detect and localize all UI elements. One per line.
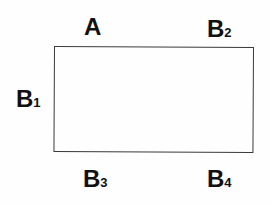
label-b1-sub: 1 — [33, 95, 40, 110]
diagram-canvas: A B2 B1 B3 B4 — [0, 0, 270, 205]
label-b4-main: B — [207, 165, 224, 192]
label-b4-sub: 4 — [224, 175, 231, 190]
label-b2-sub: 2 — [224, 25, 231, 40]
label-b2: B2 — [207, 17, 232, 45]
label-b3-sub: 3 — [100, 175, 107, 190]
label-b3-main: B — [83, 165, 100, 192]
label-b1: B1 — [16, 87, 41, 115]
rectangle — [53, 46, 254, 153]
label-a: A — [84, 15, 101, 43]
label-b1-main: B — [16, 85, 33, 112]
label-a-main: A — [84, 13, 101, 40]
label-b3: B3 — [83, 167, 108, 195]
label-b4: B4 — [207, 167, 232, 195]
label-b2-main: B — [207, 15, 224, 42]
